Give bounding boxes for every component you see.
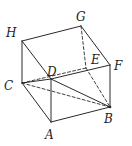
vertex-label-b: B — [103, 112, 113, 126]
edge-ca — [22, 83, 51, 122]
edge-hg — [22, 26, 81, 41]
edge-df — [51, 65, 110, 79]
vertex-label-d: D — [46, 65, 57, 79]
edge-ab — [51, 107, 110, 122]
cube-diagram-svg: A B C D E F G H — [0, 0, 132, 146]
vertex-label-e: E — [90, 53, 100, 67]
edges-layer — [22, 26, 110, 122]
cube-diagram: A B C D E F G H — [0, 0, 132, 146]
vertex-label-f: F — [113, 59, 123, 73]
vertex-b-point — [109, 106, 112, 109]
vertex-label-a: A — [44, 128, 54, 142]
edge-cd — [22, 79, 51, 83]
vertex-label-h: H — [5, 26, 17, 40]
vertex-label-g: G — [76, 10, 86, 24]
vertex-label-c: C — [4, 79, 13, 93]
